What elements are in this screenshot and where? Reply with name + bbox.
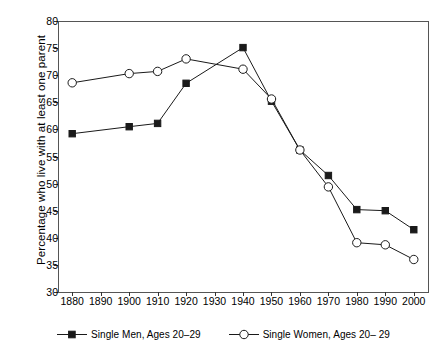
data-point-marker [68,79,76,87]
data-point-marker [154,120,160,126]
data-point-marker [153,67,161,75]
data-point-marker [240,44,246,50]
data-point-marker [125,69,133,77]
data-point-marker [183,80,189,86]
filled-square-marker-icon [57,328,87,340]
y-axis-tick-labels: 3035404550556065707580 [32,0,58,292]
data-point-marker [382,208,388,214]
chart-legend: Single Men, Ages 20–29Single Women, Ages… [0,328,447,340]
y-axis-tick-label: 65 [34,97,58,107]
legend-marker [69,331,76,338]
y-axis-tick-label: 80 [34,16,58,26]
data-point-marker [324,183,332,191]
y-axis-tick-label: 70 [34,70,58,80]
data-point-marker [410,255,418,263]
y-axis-tick-label: 35 [34,260,58,270]
data-point-marker [239,65,247,73]
data-point-marker [354,206,360,212]
plot-frame [59,22,429,293]
legend-item-men[interactable]: Single Men, Ages 20–29 [57,328,201,340]
data-point-marker [126,124,132,130]
legend-label: Single Men, Ages 20–29 [91,329,201,340]
data-point-marker [69,131,75,137]
data-point-marker [411,227,417,233]
y-axis-tick-label: 45 [34,206,58,216]
chart-container: Percentage who live with at least one pa… [0,0,447,353]
open-circle-marker-icon [229,328,259,340]
y-axis-tick-label: 60 [34,124,58,134]
data-point-marker [267,95,275,103]
data-point-marker [182,55,190,63]
data-point-marker [325,172,331,178]
y-axis-tick-label: 50 [34,179,58,189]
data-point-marker [381,241,389,249]
legend-marker [239,330,247,338]
legend-label: Single Women, Ages 20– 29 [263,329,390,340]
y-axis-tick-label: 40 [34,233,58,243]
x-axis-tick-label: 2000 [394,296,434,307]
y-axis-tick-label: 75 [34,43,58,53]
data-point-marker [353,239,361,247]
legend-item-women[interactable]: Single Women, Ages 20– 29 [229,328,390,340]
y-axis-tick-label: 55 [34,152,58,162]
data-point-marker [296,146,304,154]
